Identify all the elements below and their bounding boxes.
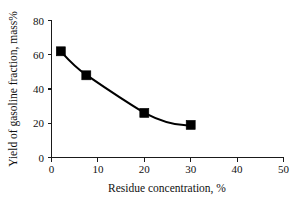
y-tick-label-60: 60 — [33, 49, 45, 61]
y-axis-title: Yield of gasoline fraction, mass% — [7, 11, 20, 167]
x-axis-title: Residue concentration, % — [108, 182, 226, 195]
y-tick-label-40: 40 — [33, 83, 45, 95]
chart-background — [0, 0, 302, 203]
data-point-marker — [186, 120, 195, 129]
data-point-marker — [82, 71, 91, 80]
x-tick-label-0: 0 — [49, 163, 55, 175]
x-tick-label-30: 30 — [185, 163, 197, 175]
y-tick-label-80: 80 — [33, 15, 45, 27]
chart-figure: 0 20 40 60 80 0 10 20 30 40 50 Residue c… — [0, 0, 302, 203]
data-point-marker — [56, 47, 65, 56]
x-tick-label-50: 50 — [278, 163, 290, 175]
x-tick-label-40: 40 — [232, 163, 244, 175]
x-tick-label-20: 20 — [139, 163, 151, 175]
y-tick-label-20: 20 — [33, 117, 45, 129]
x-tick-label-10: 10 — [92, 163, 104, 175]
y-tick-label-0: 0 — [39, 152, 45, 164]
data-point-marker — [140, 108, 149, 117]
chart-canvas: 0 20 40 60 80 0 10 20 30 40 50 Residue c… — [0, 0, 302, 203]
